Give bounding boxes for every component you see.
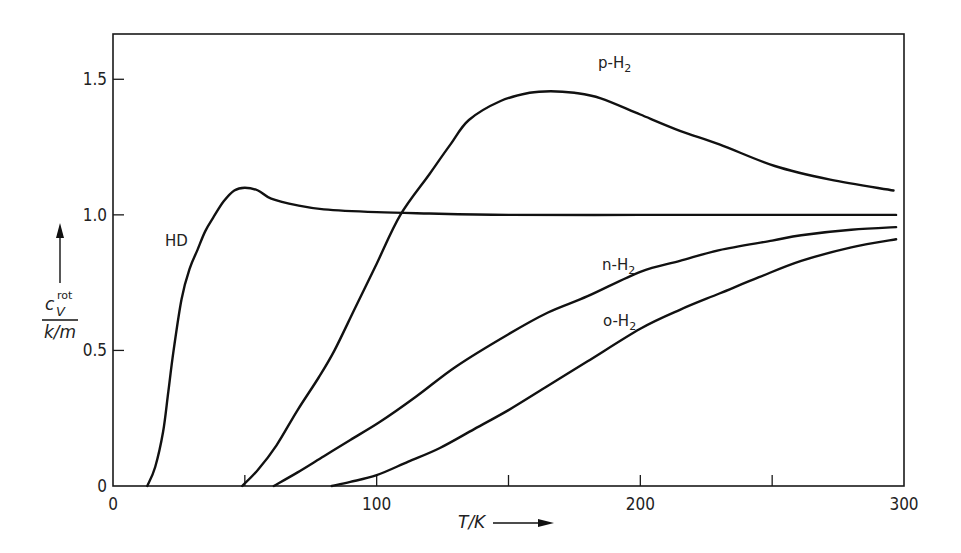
plot-border	[113, 34, 904, 486]
curve-n-h2	[274, 227, 896, 486]
y-tick-label: 1.5	[83, 69, 107, 89]
x-tick-label: 300	[889, 494, 918, 514]
y-axis-symbol: c	[45, 294, 55, 314]
x-axis-ticks: 0100200300	[108, 475, 918, 514]
curve-o-h2	[332, 239, 896, 486]
y-axis-title: c V rot k/m	[42, 223, 78, 342]
y-tick-label: 1.0	[83, 205, 107, 225]
plot-curves	[147, 91, 896, 486]
curve-label-o-h2: o-H2	[603, 312, 636, 333]
curve-label-p-h2: p-H2	[598, 54, 631, 75]
curve-label-subscript: 2	[629, 320, 636, 333]
x-axis-arrow-head	[538, 519, 554, 527]
curve-p-h2	[242, 91, 893, 486]
y-axis-ticks: 00.51.01.5	[83, 69, 124, 496]
x-tick-label: 100	[362, 494, 391, 514]
x-axis-label: T/K	[458, 512, 487, 532]
x-tick-label: 200	[626, 494, 655, 514]
curve-label-subscript: 2	[628, 264, 635, 277]
y-tick-label: 0.5	[83, 340, 107, 360]
curve-label-subscript: 2	[624, 62, 631, 75]
chart-canvas: 0100200300 00.51.01.5 HDp-H2n-H2o-H2 c V…	[0, 0, 961, 553]
y-axis-arrow-head	[56, 223, 64, 238]
y-axis-subscript: V	[56, 304, 66, 319]
y-axis-superscript: rot	[57, 289, 73, 302]
curve-hd	[147, 188, 896, 486]
plot-frame	[113, 34, 904, 486]
curve-label-hd: HD	[165, 232, 188, 250]
y-axis-denominator: k/m	[44, 322, 76, 342]
x-axis-title: T/K	[458, 512, 554, 532]
x-tick-label: 0	[108, 494, 118, 514]
curve-labels: HDp-H2n-H2o-H2	[165, 54, 636, 333]
y-tick-label: 0	[97, 476, 107, 496]
curve-label-n-h2: n-H2	[602, 256, 635, 277]
